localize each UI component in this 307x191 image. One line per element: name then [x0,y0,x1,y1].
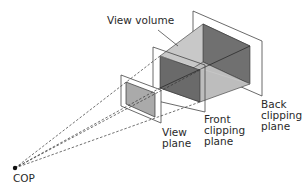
label-view-volume: View volume [107,15,174,26]
cop-point [13,166,17,170]
view-volume-leader [158,30,178,46]
label-front-clipping-plane: Front clipping plane [204,114,245,147]
label-view-plane: View plane [162,127,191,149]
view-volume-diagram [0,0,307,191]
label-back-clipping-plane: Back clipping plane [261,99,302,132]
label-cop: COP [13,173,35,184]
